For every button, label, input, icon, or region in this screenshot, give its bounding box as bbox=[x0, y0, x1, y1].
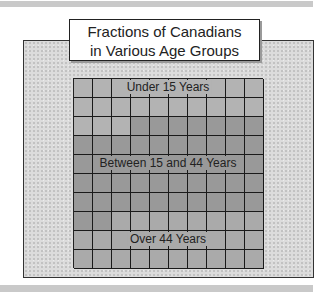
waffle-cell bbox=[150, 174, 169, 193]
waffle-cell bbox=[93, 136, 112, 155]
waffle-cell bbox=[245, 79, 264, 98]
waffle-cell bbox=[207, 193, 226, 212]
waffle-cell bbox=[245, 174, 264, 193]
waffle-cell bbox=[245, 155, 264, 174]
waffle-cell bbox=[245, 136, 264, 155]
chart-title: Fractions of Canadians in Various Age Gr… bbox=[69, 19, 260, 61]
waffle-cell bbox=[245, 250, 264, 269]
waffle-cell bbox=[169, 136, 188, 155]
waffle-cell bbox=[74, 174, 93, 193]
waffle-cell bbox=[226, 117, 245, 136]
waffle-cell bbox=[169, 117, 188, 136]
waffle-cell bbox=[93, 98, 112, 117]
waffle-cell bbox=[245, 231, 264, 250]
waffle-cell bbox=[93, 231, 112, 250]
waffle-cell bbox=[131, 136, 150, 155]
waffle-cell bbox=[207, 98, 226, 117]
waffle-cell bbox=[226, 193, 245, 212]
waffle-cell bbox=[226, 231, 245, 250]
waffle-cell bbox=[131, 98, 150, 117]
label-under-15: Under 15 Years bbox=[125, 80, 212, 94]
waffle-cell bbox=[131, 174, 150, 193]
waffle-cell bbox=[207, 174, 226, 193]
waffle-cell bbox=[150, 136, 169, 155]
waffle-cell bbox=[188, 136, 207, 155]
bottom-divider-bar bbox=[0, 285, 313, 292]
waffle-cell bbox=[74, 231, 93, 250]
waffle-cell bbox=[150, 193, 169, 212]
waffle-cell bbox=[207, 250, 226, 269]
waffle-cell bbox=[74, 117, 93, 136]
top-divider-bar bbox=[0, 1, 313, 7]
waffle-cell bbox=[245, 98, 264, 117]
waffle-cell bbox=[74, 98, 93, 117]
waffle-cell bbox=[112, 136, 131, 155]
waffle-cell bbox=[169, 250, 188, 269]
waffle-cell bbox=[226, 174, 245, 193]
waffle-cell bbox=[188, 174, 207, 193]
waffle-cell bbox=[245, 117, 264, 136]
waffle-cell bbox=[74, 250, 93, 269]
waffle-cell bbox=[226, 212, 245, 231]
waffle-cell bbox=[74, 155, 93, 174]
waffle-cell bbox=[112, 250, 131, 269]
waffle-cell bbox=[207, 231, 226, 250]
waffle-cell bbox=[245, 193, 264, 212]
waffle-cell bbox=[74, 79, 93, 98]
waffle-cell bbox=[169, 193, 188, 212]
waffle-cell bbox=[169, 174, 188, 193]
waffle-cell bbox=[93, 212, 112, 231]
waffle-cell bbox=[188, 98, 207, 117]
waffle-cell bbox=[112, 212, 131, 231]
waffle-cell bbox=[131, 193, 150, 212]
waffle-cell bbox=[207, 212, 226, 231]
waffle-cell bbox=[131, 117, 150, 136]
waffle-cell bbox=[150, 250, 169, 269]
title-line-1: Fractions of Canadians bbox=[70, 22, 259, 41]
waffle-cell bbox=[93, 250, 112, 269]
waffle-cell bbox=[245, 212, 264, 231]
waffle-cell bbox=[150, 98, 169, 117]
waffle-cell bbox=[226, 98, 245, 117]
waffle-cell bbox=[131, 212, 150, 231]
waffle-cell bbox=[188, 117, 207, 136]
waffle-cell bbox=[226, 79, 245, 98]
waffle-cell bbox=[93, 193, 112, 212]
waffle-cell bbox=[93, 117, 112, 136]
waffle-cell bbox=[207, 117, 226, 136]
title-line-2: in Various Age Groups bbox=[70, 41, 259, 60]
waffle-cell bbox=[150, 117, 169, 136]
waffle-cell bbox=[74, 136, 93, 155]
waffle-cell bbox=[188, 212, 207, 231]
waffle-cell bbox=[188, 250, 207, 269]
waffle-cell bbox=[131, 250, 150, 269]
waffle-cell bbox=[207, 136, 226, 155]
waffle-cell bbox=[112, 117, 131, 136]
label-15-to-44: Between 15 and 44 Years bbox=[98, 156, 239, 170]
waffle-cell bbox=[226, 250, 245, 269]
waffle-cell bbox=[93, 174, 112, 193]
waffle-cell bbox=[169, 98, 188, 117]
waffle-cell bbox=[169, 212, 188, 231]
label-over-44: Over 44 Years bbox=[128, 232, 208, 246]
waffle-cell bbox=[93, 79, 112, 98]
waffle-cell bbox=[150, 212, 169, 231]
waffle-cell bbox=[74, 193, 93, 212]
waffle-cell bbox=[226, 136, 245, 155]
waffle-cell bbox=[188, 193, 207, 212]
waffle-cell bbox=[112, 174, 131, 193]
waffle-cell bbox=[112, 98, 131, 117]
waffle-cell bbox=[74, 212, 93, 231]
waffle-cell bbox=[112, 193, 131, 212]
